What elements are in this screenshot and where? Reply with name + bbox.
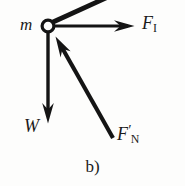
force-inertial-label: FI [142, 14, 157, 35]
mass-label: m [20, 16, 32, 33]
free-body-diagram-figure: m FI W F′N b) [0, 0, 185, 186]
point-mass-node [42, 20, 54, 32]
force-normal-label: F′N [117, 123, 139, 146]
force-normal-subscript: N [131, 132, 140, 146]
weight-vector [42, 32, 54, 124]
force-inertial-subscript: I [153, 21, 157, 35]
figure-caption: b) [0, 158, 185, 175]
force-normal-arrowhead [56, 37, 71, 58]
force-inertial-symbol: F [142, 13, 153, 33]
weight-label: W [24, 117, 39, 135]
force-inertial-vector [54, 20, 135, 32]
force-normal-vector [56, 37, 114, 139]
rod-link-line [52, 0, 108, 23]
force-normal-shaft [63, 49, 114, 139]
force-normal-symbol: F [117, 124, 128, 144]
